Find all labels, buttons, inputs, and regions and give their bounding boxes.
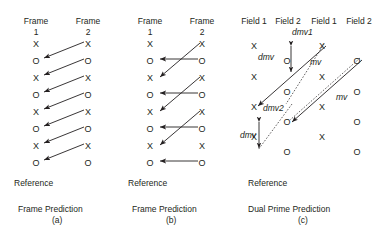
panel-b-arrows <box>124 0 242 230</box>
panel-a-caption-line1: Frame Prediction <box>18 204 83 215</box>
panel-b-caption-line2: (b) <box>166 215 176 226</box>
panel-c-label-mv-upper: mv <box>310 58 321 67</box>
panel-a-caption-line2: (a) <box>52 215 62 226</box>
panel-c-dual-prime-prediction: Field 1 Field 2 Field 1 Field 2 X X X X … <box>242 0 378 230</box>
panel-b-caption-line1: Frame Prediction <box>132 204 197 215</box>
panel-b-reference-label: Reference <box>128 178 167 189</box>
panel-a-frame-prediction: Frame 1 Frame 2 X O X O X O X O X O X O … <box>0 0 124 230</box>
panel-c-label-dmv1: dmv1 <box>292 28 313 37</box>
panel-c-caption-line1: Dual Prime Prediction <box>248 204 330 215</box>
panel-a-reference-label: Reference <box>14 178 53 189</box>
panel-c-label-dmv: dmv <box>258 53 274 62</box>
panel-c-caption-line2: (c) <box>298 215 308 226</box>
figure-motion-prediction: Frame 1 Frame 2 X O X O X O X O X O X O … <box>0 0 378 230</box>
panel-c-label-dmv2: dmv2 <box>263 104 284 113</box>
panel-c-label-dmv-lower: dmv <box>240 131 256 140</box>
panel-b-frame-prediction: Frame 1 Frame 2 X O X O X O X O X O X O … <box>124 0 242 230</box>
panel-c-reference-label: Reference <box>248 178 287 189</box>
panel-c-label-mv-lower: mv <box>336 93 347 102</box>
panel-a-arrows <box>0 0 124 230</box>
